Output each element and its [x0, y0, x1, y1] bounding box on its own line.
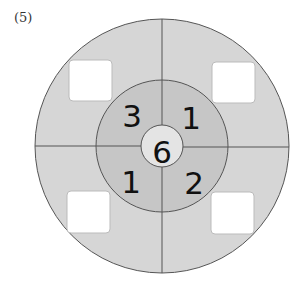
number-wheel-diagram: 3 1 6 1 2 — [0, 0, 307, 286]
value-top-left: 3 — [122, 98, 142, 134]
value-bottom-right: 2 — [184, 165, 204, 201]
answer-box-bottom-right[interactable] — [211, 192, 254, 234]
value-bottom-left: 1 — [121, 164, 141, 200]
answer-box-top-left[interactable] — [69, 60, 112, 101]
value-top-right: 1 — [181, 100, 201, 136]
answer-box-top-right[interactable] — [212, 62, 255, 103]
answer-box-bottom-left[interactable] — [67, 191, 110, 233]
value-center: 6 — [152, 134, 172, 170]
